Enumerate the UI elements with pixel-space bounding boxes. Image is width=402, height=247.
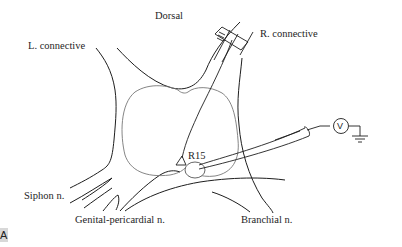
label-dorsal: Dorsal xyxy=(155,10,183,22)
voltmeter-label: V xyxy=(337,120,343,132)
label-right-connective: R. connective xyxy=(260,28,318,40)
panel-label: A xyxy=(0,228,8,242)
label-r15: R15 xyxy=(188,150,206,162)
label-siphon-nerve: Siphon n. xyxy=(24,190,64,202)
label-branchial-nerve: Branchial n. xyxy=(241,214,292,226)
ganglion-outline xyxy=(70,22,285,213)
triangle-marker-icon xyxy=(176,156,186,165)
suction-electrode xyxy=(214,27,253,62)
ganglion-body xyxy=(122,86,238,177)
label-left-connective: L. connective xyxy=(28,40,85,52)
ground-icon xyxy=(352,136,368,142)
ganglion-recording-diagram: Dorsal L. connective R. connective R15 S… xyxy=(0,0,402,247)
r15-axon xyxy=(182,40,232,158)
label-genital-pericardial-nerve: Genital-pericardial n. xyxy=(75,214,165,226)
microelectrode xyxy=(199,126,330,169)
